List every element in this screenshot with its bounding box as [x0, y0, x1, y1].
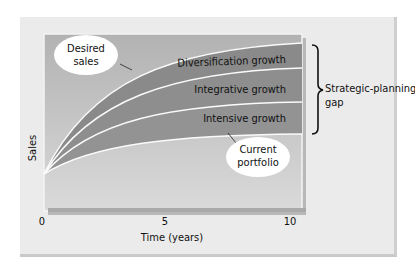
x-axis-label: Time (years) — [140, 231, 203, 244]
desired-sales-label-1: Desired — [67, 42, 105, 55]
current-portfolio-label-2: portfolio — [237, 156, 278, 169]
x-tick-10: 10 — [284, 215, 297, 228]
current-portfolio-label-1: Current — [239, 143, 276, 156]
gap-label-2: gap — [325, 96, 344, 109]
desired-sales-label-2: sales — [73, 55, 98, 68]
gap-label-1: Strategic-planning — [325, 82, 415, 95]
intensive-growth-label: Intensive growth — [203, 112, 286, 125]
integrative-growth-label: Integrative growth — [194, 83, 286, 96]
x-tick-0: 0 — [39, 215, 45, 228]
gap-brace — [312, 45, 323, 134]
x-tick-5: 5 — [162, 215, 168, 228]
x-axis-bar — [48, 208, 306, 212]
strategic-planning-gap-chart: Desired sales Current portfolio Diversif… — [0, 0, 415, 273]
y-axis-label: Sales — [26, 135, 39, 161]
